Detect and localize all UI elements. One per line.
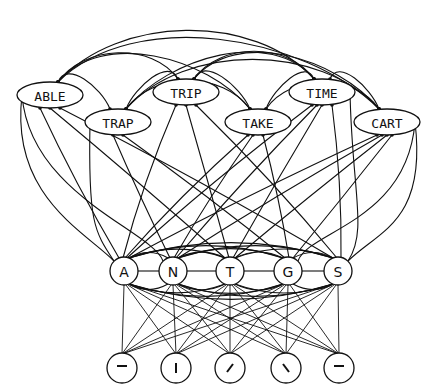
- letter-label: S: [334, 264, 343, 280]
- word-label: TRIP: [170, 86, 201, 101]
- word-label: TIME: [306, 86, 337, 101]
- feature-node-f1-horizontal-bar-icon: [107, 353, 137, 383]
- feature-node-f4-back-slash-icon: [271, 353, 301, 383]
- word-node-cart: CART: [354, 109, 420, 135]
- feature-node-f3-forward-slash-icon: [215, 353, 245, 383]
- node-layer: ABLETRAPTRIPTAKETIMECARTANTGS: [0, 0, 435, 391]
- feature-node-f5-horizontal-bar-icon: [324, 353, 354, 383]
- letter-label: T: [225, 264, 235, 280]
- network-diagram: ABLETRAPTRIPTAKETIMECARTANTGS: [0, 0, 435, 391]
- word-label: ABLE: [34, 89, 65, 104]
- word-node-able: ABLE: [17, 82, 83, 108]
- word-node-take: TAKE: [225, 109, 291, 135]
- feature-node-f2-vertical-bar-icon: [161, 353, 191, 383]
- letter-node-t: T: [216, 257, 244, 285]
- letter-node-a: A: [110, 257, 138, 285]
- letter-label: N: [168, 264, 178, 280]
- letter-label: G: [283, 264, 294, 280]
- word-label: CART: [371, 116, 402, 131]
- word-node-trap: TRAP: [85, 109, 151, 135]
- word-label: TAKE: [242, 116, 273, 131]
- letter-node-n: N: [159, 257, 187, 285]
- letter-node-s: S: [324, 257, 352, 285]
- letter-node-g: G: [274, 257, 302, 285]
- word-label: TRAP: [102, 116, 133, 131]
- letter-label: A: [119, 264, 129, 280]
- word-node-trip: TRIP: [153, 79, 219, 105]
- word-node-time: TIME: [289, 79, 355, 105]
